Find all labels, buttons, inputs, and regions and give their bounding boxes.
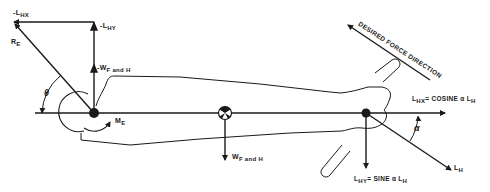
forearm-outline-top [96,76,341,106]
forearm-outline-bottom [81,131,342,145]
theta-label: θ [44,88,49,98]
lh-vector [366,113,451,170]
lh-label: LH [454,164,463,173]
re-vector [15,24,94,113]
elbow-joint-outline [59,92,88,132]
alpha-label: α [414,123,420,133]
me-label: ME [115,117,125,126]
hand-pivot [362,109,371,118]
elbow-pivot [89,108,99,118]
wfh-label: WF and H [232,153,263,162]
re-label: RE [11,38,21,47]
lhx-equation-label: LHX= COSINE α LH [412,95,476,104]
handle-bar [321,59,400,177]
lhy-equation-label: LHY= SINE α LH [354,175,407,184]
desired-force-arrow [348,25,430,80]
me-moment-arc [84,122,110,131]
neg-lhx-label: -LHX [13,9,29,18]
neg-lhy-label: -LHY [100,22,116,31]
neg-wfh-label: -WF and H [97,64,131,73]
